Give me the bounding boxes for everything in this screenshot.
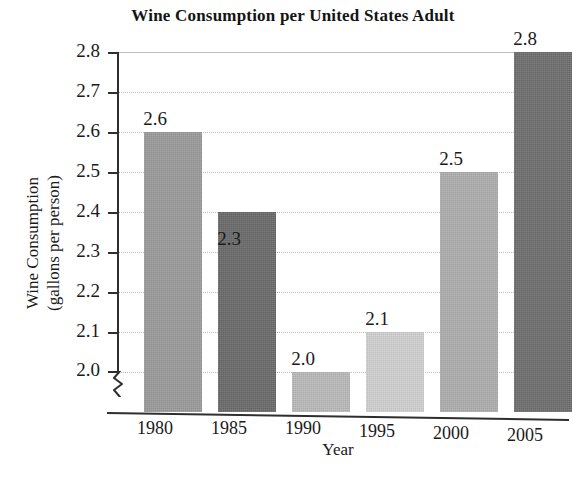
bar-1990[interactable] xyxy=(292,372,350,412)
y-tick-2-3 xyxy=(108,252,118,254)
y-tick-label-2-2: 2.2 xyxy=(38,280,100,302)
y-tick-label-2-5: 2.5 xyxy=(38,160,100,182)
wine-consumption-bar-chart: Wine Consumption per United States Adult… xyxy=(0,0,586,477)
bar-value-1995: 2.1 xyxy=(336,308,418,330)
bar-value-1990: 2.0 xyxy=(262,348,344,370)
y-tick-label-2-3: 2.3 xyxy=(38,240,100,262)
y-tick-label-2-0: 2.0 xyxy=(38,359,100,381)
y-axis-tick-labels: 2.8 2.7 2.6 2.5 2.4 2.3 2.2 2.1 2.0 xyxy=(38,0,100,477)
y-tick-2-7 xyxy=(108,92,118,94)
y-tick-2-8 xyxy=(108,52,118,54)
y-tick-2-4 xyxy=(108,212,118,214)
y-tick-label-2-6: 2.6 xyxy=(38,120,100,142)
y-tick-label-2-1: 2.1 xyxy=(38,320,100,342)
bar-value-1985: 2.3 xyxy=(188,228,270,250)
bar-value-1980: 2.6 xyxy=(114,108,196,130)
y-tick-label-2-4: 2.4 xyxy=(38,200,100,222)
y-tick-label-2-7: 2.7 xyxy=(38,80,100,102)
bar-2000[interactable] xyxy=(440,172,498,412)
bar-value-2000: 2.5 xyxy=(410,148,492,170)
bar-1980[interactable] xyxy=(144,132,202,412)
bar-2005[interactable] xyxy=(514,52,572,412)
y-tick-label-2-8: 2.8 xyxy=(38,40,100,62)
bar-1995[interactable] xyxy=(366,332,424,412)
x-axis-title: Year xyxy=(108,440,568,460)
y-tick-2-5 xyxy=(108,172,118,174)
y-tick-2-1 xyxy=(108,332,118,334)
bar-value-2005: 2.8 xyxy=(484,28,566,50)
y-tick-2-6 xyxy=(108,132,118,134)
y-tick-2-2 xyxy=(108,292,118,294)
